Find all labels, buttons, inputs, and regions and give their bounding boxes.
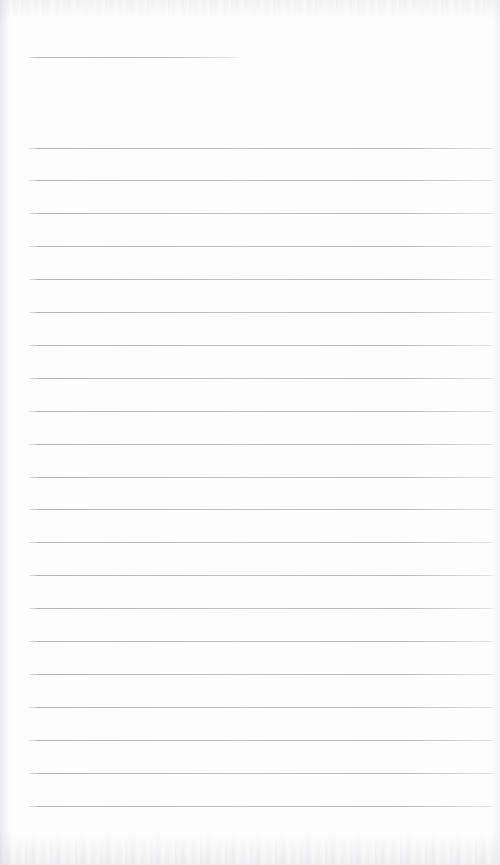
header-rule [29,57,242,58]
ruled-line [29,707,496,708]
ruled-line [29,674,496,675]
ruled-line [29,477,496,478]
ruled-line [29,411,496,412]
ruled-line [29,509,496,510]
ruled-line [29,180,496,181]
ruled-line [29,246,496,247]
ruled-line [29,345,496,346]
ruled-line [29,378,496,379]
scanned-page [0,0,500,865]
ruled-line [29,312,496,313]
ruled-line [29,575,496,576]
ruled-line [29,608,496,609]
ruled-line [29,444,496,445]
ruled-line [29,740,496,741]
ruled-line [29,773,496,774]
ruled-line [29,279,496,280]
ruled-line [29,806,496,807]
paper-background [0,0,500,865]
ruled-line [29,213,496,214]
ruled-line [29,542,496,543]
ruled-line [29,641,496,642]
ruled-line [29,148,496,149]
